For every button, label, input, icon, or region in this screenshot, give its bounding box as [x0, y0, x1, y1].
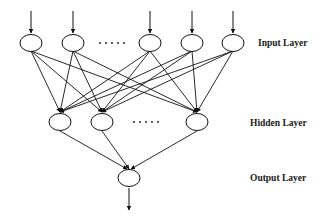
input-layer-label: Input Layer	[258, 39, 307, 49]
output-node	[118, 170, 140, 187]
hidden-node	[186, 114, 208, 131]
hidden-node	[49, 114, 71, 131]
input-node	[181, 35, 203, 52]
input-to-hidden-connections	[31, 51, 233, 112]
ellipsis-dots	[99, 42, 159, 123]
input-node	[139, 35, 161, 52]
hidden-to-output-connections	[60, 131, 197, 169]
neural-network-diagram	[0, 0, 329, 218]
input-arrows	[31, 11, 233, 33]
output-layer-nodes	[118, 170, 140, 187]
input-layer-nodes	[20, 35, 244, 52]
output-layer-label: Output Layer	[250, 174, 306, 184]
input-node	[62, 35, 84, 52]
hidden-layer-label: Hidden Layer	[250, 119, 307, 129]
hidden-node	[91, 114, 113, 131]
input-node	[20, 35, 42, 52]
hidden-layer-nodes	[49, 114, 208, 131]
input-node	[222, 35, 244, 52]
